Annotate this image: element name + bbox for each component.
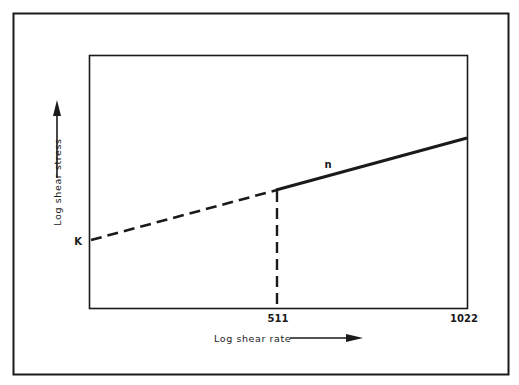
x-tick-511: 511 — [268, 313, 289, 324]
x-axis-label: Log shear rate — [214, 333, 291, 344]
k-label: K — [74, 236, 83, 247]
plot-frame — [90, 56, 468, 309]
extrapolated-line — [91, 190, 277, 240]
x-arrow-icon — [290, 334, 363, 342]
x-tick-1022: 1022 — [450, 313, 478, 324]
rheology-diagram: K n 511 1022 Log shear rate Log shear st… — [0, 0, 519, 385]
measured-line — [276, 138, 467, 190]
n-label: n — [324, 159, 331, 170]
